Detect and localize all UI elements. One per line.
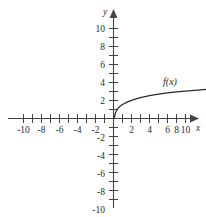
x-axis-arrow-icon [190, 115, 199, 123]
y-tick-label: -6 [97, 169, 105, 179]
x-tick-label: 6 [165, 125, 170, 135]
x-tick-label: -10 [17, 125, 30, 135]
x-tick-label: -8 [38, 125, 46, 135]
function-curve-label: f(x) [163, 76, 178, 88]
y-tick-label: 8 [100, 42, 105, 52]
y-tick-label: 10 [96, 24, 106, 34]
y-axis-label: y [102, 7, 108, 17]
x-tick-label: 4 [147, 125, 152, 135]
y-tick-label: -2 [97, 133, 105, 143]
graph-figure: -10 -8 -6 -4 -2 2 4 6 8 10 10 8 6 4 2 -2… [0, 0, 206, 217]
y-tick-label: -4 [97, 151, 105, 161]
y-tick-label: 2 [100, 96, 105, 106]
x-tick-label: 8 [174, 125, 179, 135]
y-tick-label: 4 [100, 78, 105, 88]
y-tick-label: 6 [100, 60, 105, 70]
y-axis-arrow-icon [110, 9, 118, 18]
function-curve [114, 89, 206, 118]
x-tick-label: -6 [56, 125, 64, 135]
x-tick-label: -4 [74, 125, 82, 135]
y-tick-label: -8 [97, 187, 105, 197]
y-tick-label: -10 [92, 205, 105, 215]
x-axis-label: x [195, 123, 201, 133]
coordinate-plane-svg: -10 -8 -6 -4 -2 2 4 6 8 10 10 8 6 4 2 -2… [0, 0, 206, 217]
x-tick-label: 10 [181, 125, 191, 135]
x-tick-label: 2 [129, 125, 134, 135]
